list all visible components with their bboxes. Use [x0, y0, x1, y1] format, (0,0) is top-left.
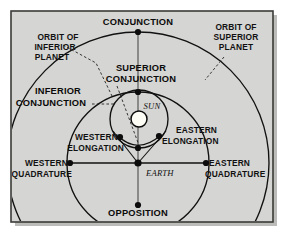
- label-inferior-orbit-line3: PLANET: [35, 52, 70, 62]
- label-earth: EARTH: [145, 168, 174, 178]
- node-earth: [134, 159, 141, 166]
- label-western-quadrature-line2: QUADRATURE: [12, 169, 73, 179]
- label-eastern-elongation-line1: EASTERN: [176, 125, 217, 135]
- label-superior-conjunction-line1: SUPERIOR: [116, 63, 166, 73]
- label-eastern-elongation-line2: ELONGATION: [162, 136, 219, 146]
- planetary-configurations-diagram: CONJUNCTION ORBIT OF INFERIOR PLANET ORB…: [0, 0, 290, 238]
- label-eastern-quadrature-line2: QUADRATURE: [205, 169, 266, 179]
- label-superior-conjunction-line2: CONJUNCTION: [106, 74, 176, 84]
- label-western-elongation-line1: WESTERN: [75, 132, 118, 142]
- label-inferior-orbit-line2: INFERIOR: [34, 42, 75, 52]
- label-opposition: OPPOSITION: [108, 208, 168, 218]
- node-conjunction: [135, 29, 141, 35]
- node-inferior-conjunction: [135, 145, 141, 151]
- label-inferior-orbit-line1: ORBIT OF: [37, 32, 78, 42]
- label-conjunction: CONJUNCTION: [103, 17, 173, 27]
- label-superior-orbit-line1: ORBIT OF: [215, 22, 256, 32]
- label-western-elongation-line2: ELONGATION: [67, 143, 124, 153]
- label-superior-orbit-line3: PLANET: [219, 42, 254, 52]
- node-superior-conjunction: [135, 89, 141, 95]
- label-eastern-quadrature-line1: EASTERN: [209, 158, 250, 168]
- diagram-canvas: CONJUNCTION ORBIT OF INFERIOR PLANET ORB…: [0, 0, 290, 238]
- sun-body: [131, 111, 147, 127]
- label-superior-orbit-line2: SUPERIOR: [214, 32, 259, 42]
- label-inferior-conjunction-line1: INFERIOR: [35, 86, 81, 96]
- label-sun: SUN: [144, 101, 162, 111]
- label-inferior-conjunction-line2: CONJUNCTION: [16, 98, 86, 108]
- label-western-quadrature-line1: WESTERN: [25, 158, 68, 168]
